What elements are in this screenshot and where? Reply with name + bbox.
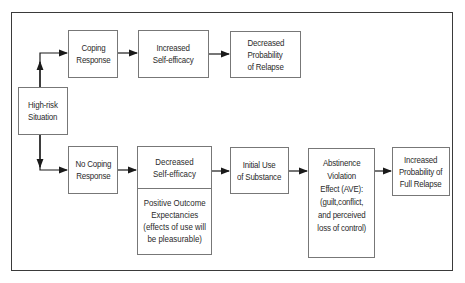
positive-outcome-expectancies-section: Positive Outcome Expectancies (effects o… — [138, 189, 211, 253]
node-increased-probability-full-relapse: Increased Probability of Full Relapse — [392, 147, 450, 196]
node-label: No Coping Response — [75, 158, 111, 182]
node-label: Initial Use of Substance — [237, 159, 281, 183]
node-coping-response: Coping Response — [68, 30, 118, 78]
node-no-coping-response: No Coping Response — [68, 146, 118, 194]
decreased-self-efficacy-section: Decreased Self-efficacy — [138, 147, 211, 189]
node-decreased-probability-relapse: Decreased Probability of Relapse — [230, 31, 301, 78]
node-label: Abstinence Violation Effect (AVE): (guil… — [317, 157, 366, 235]
node-high-risk-situation: High-risk Situation — [18, 87, 68, 135]
node-label: Increased Probability of Full Relapse — [399, 154, 442, 190]
node-sub-label: Positive Outcome Expectancies (effects o… — [143, 197, 206, 245]
node-label: Coping Response — [76, 42, 110, 66]
node-decreased-self-efficacy: Decreased Self-efficacy Positive Outcome… — [137, 146, 212, 255]
node-abstinence-violation-effect: Abstinence Violation Effect (AVE): (guil… — [308, 148, 375, 258]
node-label: Decreased Probability of Relapse — [247, 37, 284, 73]
node-label: Increased Self-efficacy — [153, 42, 194, 66]
node-label: Decreased Self-efficacy — [153, 156, 196, 180]
node-initial-use-substance: Initial Use of Substance — [230, 147, 289, 194]
node-label: High-risk Situation — [28, 99, 58, 123]
node-increased-self-efficacy: Increased Self-efficacy — [138, 30, 209, 78]
